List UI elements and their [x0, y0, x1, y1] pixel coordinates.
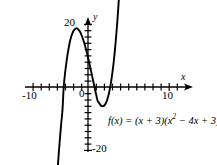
y-axis-name-label: y [93, 12, 97, 22]
equation-prefix: f(x) = (x + 3)(x [108, 115, 172, 126]
function-graph-figure: 20 -20 -10 10 0 x y f(x) = (x + 3)(x2 − … [0, 0, 217, 165]
y-axis-group [84, 17, 92, 152]
origin-label: 0 [79, 88, 85, 99]
equation-suffix: − 4x + 3) [176, 115, 217, 126]
y-axis-max-label: 20 [64, 17, 75, 28]
graph-canvas [0, 0, 217, 165]
y-axis-min-label: -20 [92, 143, 107, 154]
x-axis-min-label: -10 [22, 90, 37, 101]
function-equation-annotation: f(x) = (x + 3)(x2 − 4x + 3) [108, 113, 217, 126]
x-axis-max-label: 10 [162, 90, 173, 101]
x-axis-name-label: x [181, 72, 185, 82]
